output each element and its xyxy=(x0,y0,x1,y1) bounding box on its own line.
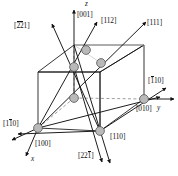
digit-overbar: 1 xyxy=(88,152,92,159)
axis-label-x: x xyxy=(31,156,34,163)
atom-center-left xyxy=(70,94,79,103)
atom-right-corner xyxy=(140,95,149,104)
axis-label-z: z xyxy=(85,1,88,8)
label-direction-11bar0: [110] xyxy=(3,120,19,127)
axis-label-y: y xyxy=(157,105,160,112)
cube-edges xyxy=(38,45,144,131)
crystal-direction-diagram: [221] z [001] [112] [111] [110] [010] y … xyxy=(0,0,178,176)
cube-right-face xyxy=(100,45,144,131)
digit-overbar: 1 xyxy=(150,77,154,84)
digit-overbar: 1 xyxy=(9,120,13,127)
lattice-atoms xyxy=(34,46,149,136)
bracket-close: ] xyxy=(160,18,162,27)
label-direction-010: [010] xyxy=(136,105,152,112)
vector-112 xyxy=(38,22,97,128)
label-direction-1bar10: [110] xyxy=(148,77,164,84)
vector-22bar1bar xyxy=(52,24,100,131)
bracket-close: ] xyxy=(16,119,18,128)
hidden-back-right-edge xyxy=(74,98,144,99)
atom-upper-right xyxy=(97,59,106,68)
bracket-close: ] xyxy=(161,76,163,85)
label-direction-110: [110] xyxy=(110,133,125,140)
atom-front-right xyxy=(96,127,105,136)
bracket-close: ] xyxy=(27,21,29,30)
bracket-close: ] xyxy=(114,16,116,25)
bracket-close: ] xyxy=(91,151,93,160)
digit-overbar: 2 xyxy=(20,22,24,29)
cube-top-face xyxy=(38,45,144,72)
label-direction-22bar1bar: [221] xyxy=(14,22,30,29)
atom-origin-front xyxy=(34,124,43,133)
atom-top-face-center xyxy=(82,46,91,55)
label-direction-100: [100] xyxy=(35,140,51,147)
label-direction-111: [111] xyxy=(147,19,162,26)
cube-hidden-edges xyxy=(38,45,144,128)
vector-221bar-b xyxy=(74,67,102,162)
label-direction-112: [112] xyxy=(101,17,116,24)
label-direction-001: [001] xyxy=(77,11,93,18)
bracket-close: ] xyxy=(123,132,125,141)
label-direction-221bar: [221] xyxy=(78,152,94,159)
atom-upper-left xyxy=(70,63,79,72)
